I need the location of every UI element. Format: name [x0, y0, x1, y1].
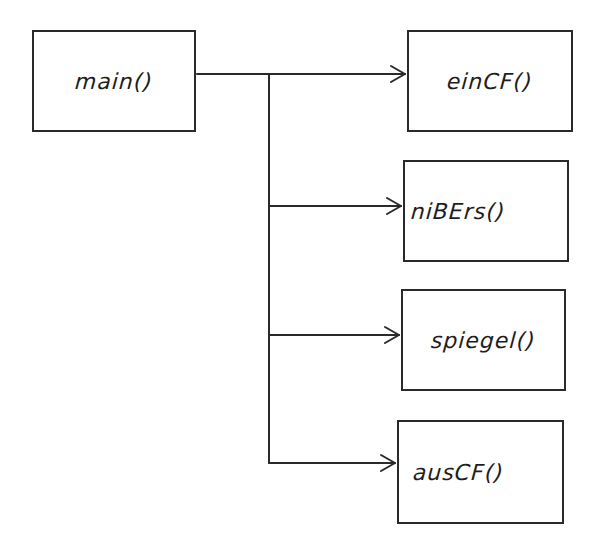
arrowhead-ein-icon [391, 66, 405, 82]
node-spiegel-label: spiegel() [430, 328, 537, 353]
node-niBErs[interactable]: niBErs() [403, 160, 569, 262]
arrowhead-spi-icon [385, 327, 399, 343]
node-main-label: main() [74, 69, 154, 94]
node-spiegel[interactable]: spiegel() [401, 289, 566, 391]
arrowhead-aus-icon [381, 455, 395, 471]
node-main[interactable]: main() [32, 30, 196, 132]
node-niBErs-label: niBErs() [410, 199, 506, 224]
node-einCF[interactable]: einCF() [407, 30, 573, 132]
node-einCF-label: einCF() [446, 69, 534, 94]
diagram-canvas: main() einCF() niBErs() spiegel() ausCF(… [0, 0, 599, 556]
node-ausCF[interactable]: ausCF() [397, 420, 564, 524]
node-ausCF-label: ausCF() [412, 460, 505, 485]
arrowhead-nib-icon [387, 198, 401, 214]
